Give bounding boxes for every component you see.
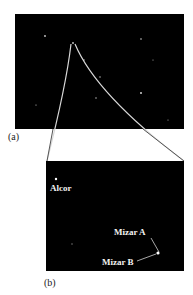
- panel-b-image: [46, 161, 184, 271]
- star: [99, 76, 100, 77]
- figure: (a) Alcor Mizar A Mizar B (b): [0, 0, 193, 295]
- alcor-label: Alcor: [50, 183, 72, 193]
- star: [140, 38, 142, 40]
- star: [153, 60, 154, 61]
- mizar-a-label: Mizar A: [114, 227, 146, 237]
- connector-left-line-gap: [47, 129, 53, 161]
- star: [44, 35, 46, 37]
- star: [35, 104, 36, 105]
- panel-a-label: (a): [8, 131, 19, 143]
- star: [168, 120, 169, 121]
- mizar-b-label: Mizar B: [102, 257, 134, 267]
- panel-a-image: [15, 14, 184, 129]
- connector-right-line-gap: [143, 129, 184, 161]
- star: [140, 92, 142, 94]
- mizar-star: [156, 251, 159, 254]
- alcor-star: [55, 178, 57, 180]
- star: [95, 97, 96, 98]
- panel-b-label: (b): [44, 277, 56, 289]
- faint-star: [71, 243, 72, 244]
- star: [72, 42, 74, 44]
